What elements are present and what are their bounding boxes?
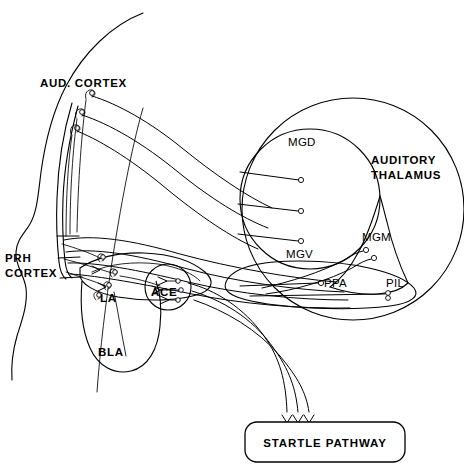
prh-cortex-tick-mid <box>58 257 80 258</box>
bouton-mgm-1 <box>363 247 368 252</box>
circuit-svg: AUD. CORTEX PRH CORTEX LA ACE BLA MGD MG… <box>0 0 464 471</box>
fiber-to-pil-1 <box>250 294 385 296</box>
bouton-pil-1 <box>386 291 391 296</box>
fiber-to-startle-2 <box>192 291 298 412</box>
fiber-cortex-to-la-3 <box>66 272 106 286</box>
bouton-mgd-3 <box>298 238 303 243</box>
fiber-to-mgm-2 <box>266 259 371 294</box>
label-ace: ACE <box>151 286 177 298</box>
fiber-to-startle-3 <box>194 300 309 412</box>
fiber-mgd-radial-1 <box>240 172 299 180</box>
bouton-audctx-2 <box>80 110 85 115</box>
bla-outline <box>81 281 161 372</box>
label-mgd: MGD <box>288 136 316 148</box>
bouton-pil-2 <box>386 296 391 301</box>
prh-cortex-tick-bottom <box>60 277 82 278</box>
fiber-thalamocortical-2 <box>82 115 268 228</box>
label-aud-cortex: AUD. CORTEX <box>40 77 127 89</box>
fiber-cortex-stalk-1 <box>77 100 86 232</box>
label-prh-cortex-line2: CORTEX <box>5 267 57 279</box>
bouton-la-3 <box>107 283 112 288</box>
fiber-thalamocortical-3 <box>77 131 258 249</box>
label-ppa: PPA <box>324 277 347 289</box>
arrowhead-ace-1 <box>158 277 167 285</box>
label-prh-cortex-line1: PRH <box>5 252 31 264</box>
fiber-mgd-radial-2 <box>238 204 298 211</box>
bouton-mgm-2 <box>371 255 376 260</box>
label-la: LA <box>100 292 117 304</box>
label-auditory-thalamus-line1: AUDITORY <box>371 154 436 166</box>
fiber-mgd-radial-3 <box>238 234 298 241</box>
label-pil: PIL <box>386 277 404 289</box>
bouton-mgd-2 <box>298 208 303 213</box>
bouton-la-1 <box>101 255 106 260</box>
label-mgm: MGM <box>362 231 391 243</box>
label-bla: BLA <box>98 346 124 358</box>
label-auditory-thalamus-line2: THALAMUS <box>371 169 441 181</box>
label-startle-pathway: STARTLE PATHWAY <box>263 437 387 449</box>
bouton-audctx-1 <box>90 91 95 96</box>
bouton-la-2 <box>113 270 118 275</box>
auditory-thalamus-outline <box>242 98 464 320</box>
neuroanatomy-diagram: AUD. CORTEX PRH CORTEX LA ACE BLA MGD MG… <box>0 0 464 471</box>
fiber-thalamocortical-1 <box>92 96 272 208</box>
label-mgv: MGV <box>286 248 313 260</box>
bouton-mgd-1 <box>298 177 303 182</box>
